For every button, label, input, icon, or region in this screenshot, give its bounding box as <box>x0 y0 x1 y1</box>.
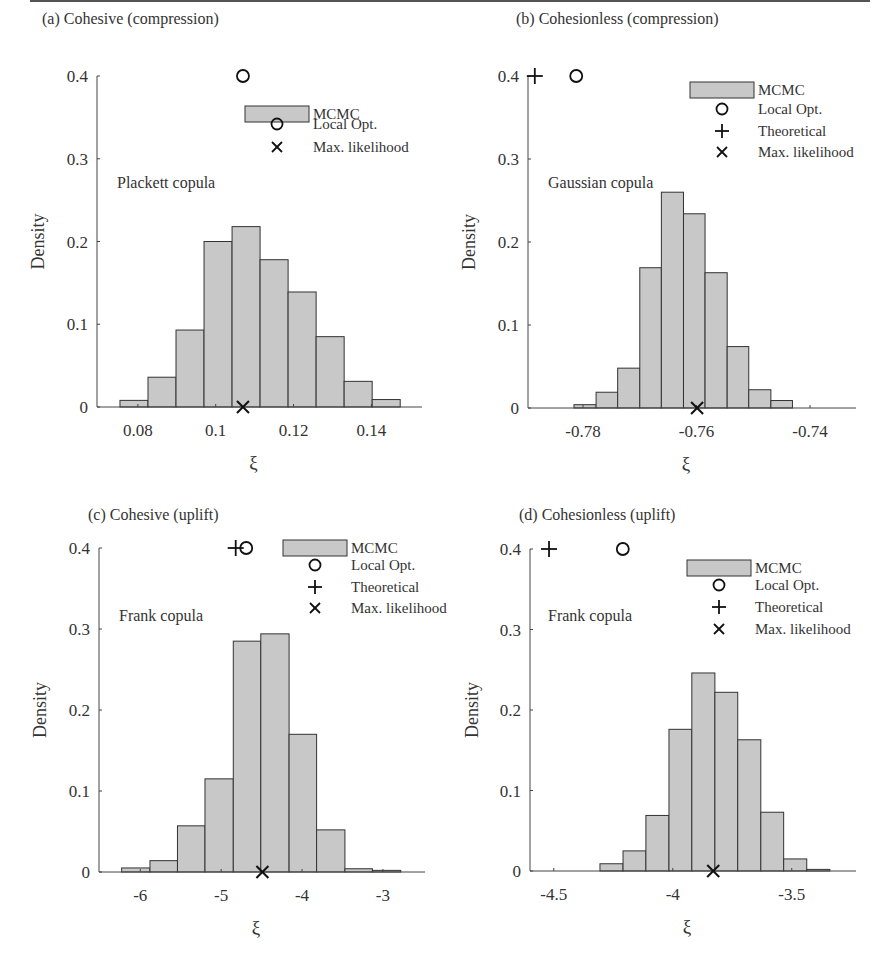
legend-mcmc-label: MCMC <box>758 82 805 98</box>
x-tick-label: -0.76 <box>679 422 714 441</box>
y-tick-label: 0.3 <box>69 620 90 639</box>
histogram-bar <box>232 227 260 407</box>
legend-max-likelihood-label: Max. likelihood <box>758 144 854 160</box>
legend-local-opt-icon <box>310 560 321 571</box>
theoretical-marker-icon <box>228 540 244 556</box>
legend-theoretical-icon <box>715 124 729 138</box>
histogram-bar <box>661 192 683 408</box>
histogram-bar <box>148 377 176 407</box>
legend-mcmc-swatch <box>687 560 751 576</box>
y-tick-label: 0.3 <box>67 150 88 169</box>
histogram-bar <box>344 381 372 407</box>
y-tick-label: 0.2 <box>69 701 90 720</box>
copula-annotation: Frank copula <box>119 607 203 625</box>
panel-title: (a) Cohesive (compression) <box>42 10 219 28</box>
histogram-bars <box>122 634 401 872</box>
histogram-bar <box>600 864 623 871</box>
x-tick-label: 0.14 <box>357 421 387 440</box>
histogram-bar <box>150 861 178 872</box>
panel-c-cohesive-uplift: (c) Cohesive (uplift)Frank copula00.10.2… <box>30 506 447 938</box>
histogram-bar <box>771 401 793 408</box>
histogram-bar <box>317 830 345 872</box>
legend-mcmc-label: MCMC <box>351 540 398 556</box>
y-tick-label: 0.4 <box>67 67 89 86</box>
legend-mcmc-swatch <box>690 82 754 98</box>
legend-theoretical-icon <box>308 580 322 594</box>
x-axis-label: ξ <box>249 452 258 473</box>
y-axis-label: Density <box>459 214 479 270</box>
y-tick-label: 0.3 <box>498 150 519 169</box>
legend: MCMCLocal Opt.TheoreticalMax. likelihood <box>687 560 851 637</box>
y-tick-label: 0 <box>513 862 522 881</box>
histogram-bar <box>372 400 400 407</box>
legend-mcmc-label: MCMC <box>755 560 802 576</box>
histogram-bar <box>261 634 289 872</box>
histogram-bar <box>640 268 662 408</box>
y-axis-label: Density <box>462 682 482 738</box>
histogram-bar <box>260 260 288 407</box>
legend: MCMCLocal Opt.Max. likelihood <box>245 106 409 155</box>
y-tick-label: 0.4 <box>69 539 91 558</box>
panel-a-cohesive-compression: (a) Cohesive (compression)Plackett copul… <box>28 10 422 473</box>
histogram-bar <box>177 826 205 872</box>
x-tick-label: -5 <box>214 886 228 905</box>
histogram-bar <box>727 347 749 408</box>
histogram-bar <box>692 673 715 871</box>
histogram-bar <box>749 390 771 408</box>
legend-max-likelihood-icon <box>310 603 320 613</box>
legend: MCMCLocal Opt.TheoreticalMax. likelihood <box>690 82 854 160</box>
histogram-bar <box>316 337 344 407</box>
histogram-bar <box>715 692 738 871</box>
legend-max-likelihood-icon <box>272 142 282 152</box>
theoretical-marker-icon <box>527 68 543 84</box>
legend-theoretical-label: Theoretical <box>758 123 826 139</box>
y-tick-label: 0.2 <box>67 233 88 252</box>
panel-title: (b) Cohesionless (compression) <box>516 10 719 28</box>
x-tick-label: -3 <box>376 886 390 905</box>
legend-mcmc-swatch <box>283 540 347 556</box>
histogram-bars <box>574 192 792 408</box>
legend-local-opt-label: Local Opt. <box>755 577 819 593</box>
panel-d-cohesionless-uplift: (d) Cohesionless (uplift)Frank copula00.… <box>462 506 856 937</box>
x-axis-label: ξ <box>252 917 261 938</box>
legend-max-likelihood-icon <box>717 147 727 157</box>
legend-max-likelihood-label: Max. likelihood <box>755 621 851 637</box>
y-tick-label: 0.1 <box>69 782 90 801</box>
y-tick-label: 0.2 <box>498 233 519 252</box>
histogram-bar <box>618 368 640 408</box>
x-tick-label: -3.5 <box>778 885 805 904</box>
y-tick-label: 0.3 <box>500 621 521 640</box>
histogram-bar <box>288 292 316 407</box>
histogram-bar <box>233 641 261 872</box>
local-opt-marker-icon <box>617 543 629 555</box>
histogram-bar <box>205 779 233 872</box>
histogram-bar <box>204 242 232 408</box>
legend-theoretical-label: Theoretical <box>351 579 419 595</box>
x-tick-label: -4.5 <box>540 885 567 904</box>
local-opt-marker-icon <box>570 70 582 82</box>
legend-max-likelihood-label: Max. likelihood <box>351 600 447 616</box>
legend-max-likelihood-label: Max. likelihood <box>313 139 409 155</box>
y-tick-label: 0 <box>511 399 520 418</box>
x-axis-label: ξ <box>682 453 691 474</box>
y-tick-label: 0.4 <box>500 540 522 559</box>
legend-local-opt-label: Local Opt. <box>351 557 415 573</box>
histogram-bar <box>669 729 692 871</box>
legend-theoretical-label: Theoretical <box>755 599 823 615</box>
theoretical-marker-icon <box>541 541 557 557</box>
panel-title: (d) Cohesionless (uplift) <box>519 506 675 524</box>
histogram-bar <box>761 812 784 871</box>
legend-local-opt-icon <box>717 104 728 115</box>
histogram-bar <box>289 734 317 872</box>
x-axis-label: ξ <box>683 916 692 937</box>
y-tick-label: 0.2 <box>500 701 521 720</box>
legend-local-opt-label: Local Opt. <box>313 116 377 132</box>
histogram-bars <box>600 673 830 871</box>
y-tick-label: 0 <box>80 398 89 417</box>
histogram-bar <box>120 400 148 407</box>
copula-annotation: Plackett copula <box>117 174 215 192</box>
y-axis-label: Density <box>28 214 48 270</box>
legend-max-likelihood-icon <box>714 624 724 634</box>
histogram-bar <box>176 330 204 407</box>
x-tick-label: 0.08 <box>123 421 153 440</box>
